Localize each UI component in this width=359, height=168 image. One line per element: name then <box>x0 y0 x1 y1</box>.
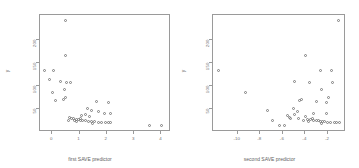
data-point <box>64 19 67 22</box>
x-tick-label: 3 <box>132 136 135 141</box>
data-point <box>63 88 66 91</box>
x-tick-label: 1 <box>77 136 80 141</box>
data-point <box>266 109 269 112</box>
x-tick-label: -4 <box>302 136 306 141</box>
data-point <box>109 121 112 124</box>
scatter-panel-first-predictor: 0123450100150200 first SAVE predictor y <box>0 0 180 168</box>
data-point <box>293 113 296 116</box>
data-point <box>297 117 300 120</box>
x-tick-mark <box>304 131 305 134</box>
x-tick-mark <box>327 131 328 134</box>
data-point <box>69 81 72 84</box>
x-tick-label: -2 <box>325 136 329 141</box>
y-tick-label: 150 <box>205 63 210 77</box>
y-tick-label: 200 <box>205 40 210 54</box>
data-point <box>107 101 110 104</box>
data-point <box>51 91 54 94</box>
data-point <box>160 124 163 127</box>
data-point <box>43 69 46 72</box>
data-point <box>307 120 310 123</box>
x-tick-mark <box>237 131 238 134</box>
x-tick-mark <box>259 131 260 134</box>
y-tick-label: 150 <box>32 63 37 77</box>
data-point <box>296 110 299 113</box>
x-tick-mark <box>51 131 52 134</box>
data-point <box>48 78 51 81</box>
data-point <box>84 113 87 116</box>
x-tick-mark <box>106 131 107 134</box>
y-tick-label: 100 <box>32 86 37 100</box>
data-point <box>330 69 333 72</box>
x-tick-mark <box>79 131 80 134</box>
data-point <box>95 100 98 103</box>
y-axis-title-right: y <box>180 70 186 73</box>
data-point <box>293 80 296 83</box>
data-point <box>319 69 322 72</box>
plot-frame-right <box>212 14 345 131</box>
x-tick-label: -8 <box>257 136 261 141</box>
data-point <box>311 117 314 120</box>
data-point <box>244 91 247 94</box>
data-point <box>325 101 328 104</box>
data-point <box>337 19 340 22</box>
data-point <box>90 109 93 112</box>
y-axis-title-left: y <box>4 70 10 73</box>
data-points-right <box>213 15 344 130</box>
x-tick-label: 2 <box>105 136 108 141</box>
x-tick-label: -10 <box>233 136 240 141</box>
data-point <box>91 122 94 125</box>
data-point <box>52 69 55 72</box>
data-point <box>88 115 91 118</box>
data-point <box>217 69 220 72</box>
x-tick-label: -6 <box>280 136 284 141</box>
data-point <box>325 112 328 115</box>
data-point <box>64 54 67 57</box>
data-points-left <box>40 15 169 130</box>
data-point <box>331 81 334 84</box>
data-point <box>86 107 89 110</box>
scatter-panel-second-predictor: -10-8-6-4-250100150200 second SAVE predi… <box>180 0 359 168</box>
x-tick-mark <box>160 131 161 134</box>
data-point <box>320 88 323 91</box>
data-point <box>289 117 292 120</box>
data-point <box>62 98 65 101</box>
data-point <box>87 120 90 123</box>
plot-frame-left <box>39 14 170 131</box>
data-point <box>59 80 62 83</box>
data-point <box>100 121 103 124</box>
y-tick-label: 50 <box>205 109 210 123</box>
scatterplot-figure: 0123450100150200 first SAVE predictor y … <box>0 0 359 168</box>
data-point <box>103 112 106 115</box>
y-tick-label: 200 <box>32 40 37 54</box>
data-point <box>65 81 68 84</box>
x-tick-mark <box>133 131 134 134</box>
data-point <box>67 119 70 122</box>
data-point <box>329 121 332 124</box>
x-axis-title-left: first SAVE predictor <box>68 156 111 162</box>
x-tick-mark <box>282 131 283 134</box>
x-tick-label: 0 <box>50 136 53 141</box>
data-point <box>109 112 112 115</box>
x-axis-title-right: second SAVE predictor <box>244 156 295 162</box>
data-point <box>320 122 323 125</box>
data-point <box>292 107 295 110</box>
data-point <box>315 100 318 103</box>
data-point <box>338 121 341 124</box>
data-point <box>312 112 315 115</box>
data-point <box>308 81 311 84</box>
data-point <box>148 124 151 127</box>
x-tick-label: 4 <box>159 136 162 141</box>
y-tick-label: 50 <box>32 109 37 123</box>
data-point <box>302 119 305 122</box>
data-point <box>54 99 57 102</box>
data-point <box>327 96 330 99</box>
data-point <box>300 98 303 101</box>
data-point <box>75 120 78 123</box>
data-point <box>304 54 307 57</box>
data-point <box>283 124 286 127</box>
data-point <box>278 124 281 127</box>
data-point <box>97 110 100 113</box>
y-tick-label: 100 <box>205 86 210 100</box>
data-point <box>271 119 274 122</box>
